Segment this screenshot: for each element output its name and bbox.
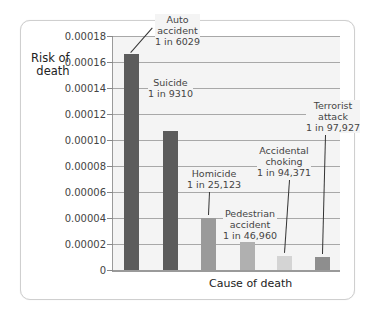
annotation-line: 1 in 9310: [148, 88, 193, 99]
x-axis-label: Cause of death: [209, 277, 292, 290]
annotation-line: 1 in 6029: [155, 36, 200, 47]
y-tick-mark: [107, 62, 113, 63]
annotation-line: Pedestrian: [223, 208, 277, 219]
annotation-suicide: Suicide1 in 9310: [148, 77, 193, 99]
y-tick-mark: [107, 218, 113, 219]
y-tick-label: 0.00006: [65, 187, 106, 198]
gridline: [113, 36, 340, 37]
y-tick-label: 0.00004: [65, 213, 106, 224]
y-tick-mark: [107, 140, 113, 141]
bar-terrorist-attack: [315, 257, 330, 270]
annotation-line: Terrorist: [306, 100, 360, 111]
y-tick-label: 0.00010: [65, 135, 106, 146]
y-tick-mark: [107, 192, 113, 193]
gridline: [113, 192, 340, 193]
leader-line: [322, 135, 326, 254]
y-tick-label: 0: [100, 265, 106, 276]
annotation-line: Accidental: [257, 145, 311, 156]
leader-line: [208, 192, 210, 215]
plot-area: Autoaccident1 in 6029Suicide1 in 9310Hom…: [112, 36, 340, 272]
bar-suicide: [163, 131, 178, 270]
annotation-line: 1 in 46,960: [223, 230, 277, 241]
annotation-line: attack: [306, 111, 360, 122]
annotation-line: Homicide: [187, 168, 241, 179]
annotation-pedestrian-accident: Pedestrianaccident1 in 46,960: [223, 208, 277, 241]
annotation-line: accident: [223, 219, 277, 230]
y-tick-mark: [107, 166, 113, 167]
annotation-auto-accident: Autoaccident1 in 6029: [155, 14, 200, 47]
bar-pedestrian-accident: [240, 242, 255, 270]
annotation-line: Auto: [155, 14, 200, 25]
y-tick-label: 0.00014: [65, 83, 106, 94]
bar-auto-accident: [124, 54, 139, 270]
y-tick-label: 0.00002: [65, 239, 106, 250]
annotation-homicide: Homicide1 in 25,123: [187, 168, 241, 190]
annotation-line: accident: [155, 25, 200, 36]
y-tick-label: 0.00018: [65, 31, 106, 42]
gridline: [113, 62, 340, 63]
y-tick-mark: [107, 88, 113, 89]
annotation-terrorist-attack: Terroristattack1 in 97,927: [306, 100, 360, 133]
annotation-line: Suicide: [148, 77, 193, 88]
bar-accidental-choking: [277, 256, 292, 270]
y-tick-label: 0.00008: [65, 161, 106, 172]
y-tick-label: 0.00012: [65, 109, 106, 120]
annotation-line: 1 in 97,927: [306, 122, 360, 133]
annotation-line: choking: [257, 156, 311, 167]
gridline: [113, 140, 340, 141]
y-tick-mark: [107, 244, 113, 245]
y-tick-label: 0.00016: [65, 57, 106, 68]
y-tick-mark: [107, 36, 113, 37]
gridline: [113, 244, 340, 245]
annotation-line: 1 in 25,123: [187, 179, 241, 190]
y-tick-mark: [107, 114, 113, 115]
y-tick-mark: [107, 270, 113, 271]
leader-line: [284, 180, 290, 253]
bar-homicide: [201, 218, 216, 270]
annotation-accidental-choking: Accidentalchoking1 in 94,371: [257, 145, 311, 178]
annotation-line: 1 in 94,371: [257, 167, 311, 178]
